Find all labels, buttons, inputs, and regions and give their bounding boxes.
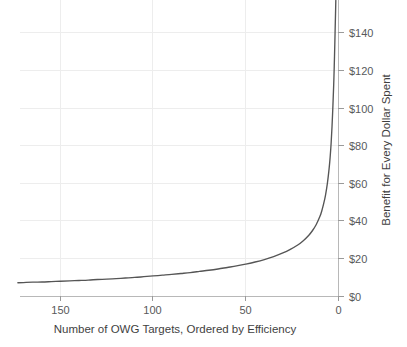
y-tick-label-60: $60 (349, 178, 367, 190)
y-tick-label-80: $80 (349, 140, 367, 152)
x-axis-tick-labels: 150 100 50 0 (51, 304, 341, 316)
x-axis-title: Number of OWG Targets, Ordered by Effici… (54, 323, 297, 335)
y-tick-label-140: $140 (349, 27, 373, 39)
x-tick-label-100: 100 (143, 304, 161, 316)
x-tick-label-0: 0 (335, 304, 341, 316)
y-axis-tick-labels: $140 $120 $100 $80 $60 $40 $20 $0 (349, 27, 373, 303)
y-axis-title: Benefit for Every Dollar Spent (380, 73, 392, 225)
benefit-per-dollar-line-chart: $140 $120 $100 $80 $60 $40 $20 $0 150 10… (0, 0, 407, 347)
y-tick-label-20: $20 (349, 253, 367, 265)
x-tick-label-50: 50 (239, 304, 251, 316)
x-tick-label-150: 150 (51, 304, 69, 316)
chart-container: $140 $120 $100 $80 $60 $40 $20 $0 150 10… (0, 0, 407, 347)
plot-background (20, 0, 338, 296)
y-tick-label-0: $0 (349, 291, 361, 303)
y-tick-label-120: $120 (349, 65, 373, 77)
y-tick-label-40: $40 (349, 215, 367, 227)
y-tick-label-100: $100 (349, 103, 373, 115)
